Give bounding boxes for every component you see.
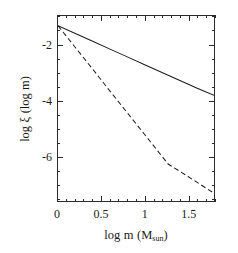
x-axis-title-close: ) <box>163 228 167 242</box>
y-axis-title: logξ(log m) <box>18 76 32 142</box>
y-axis-title-lead: log <box>18 126 32 142</box>
y-tick-right--2 <box>209 45 215 46</box>
x-tick-minor-0.1 <box>66 199 67 202</box>
x-tick-minor-1.7 <box>206 199 207 202</box>
x-tick-top-0.5 <box>101 15 102 21</box>
y-axis-title-var: ξ <box>18 117 32 123</box>
y-tick-minor--3.5 <box>57 87 60 88</box>
x-tick-top-1.8 <box>215 15 216 18</box>
x-tick-major-1 <box>145 196 146 202</box>
x-tick-top-1.5 <box>189 15 190 21</box>
y-tick-right--5.5 <box>212 143 215 144</box>
y-tick-right--5 <box>212 129 215 130</box>
y-tick-right--7 <box>212 185 215 186</box>
x-axis-title-subscript: sun <box>152 234 163 243</box>
series-line-dashed <box>58 26 214 193</box>
y-axis-title-paren: (log m) <box>18 76 32 113</box>
x-tick-label: 1 <box>142 208 148 221</box>
y-tick-right--1 <box>212 16 215 17</box>
x-tick-top-0.7 <box>118 15 119 18</box>
y-tick-minor--2.5 <box>57 59 60 60</box>
plot-frame <box>57 15 215 202</box>
x-tick-major-0.5 <box>101 196 102 202</box>
x-tick-label: 0.5 <box>93 208 108 221</box>
x-tick-top-1.1 <box>154 15 155 18</box>
x-tick-minor-1.1 <box>154 199 155 202</box>
x-tick-top-1.2 <box>162 15 163 18</box>
x-tick-top-1 <box>145 15 146 21</box>
x-tick-top-0.1 <box>66 15 67 18</box>
x-tick-minor-0.8 <box>127 199 128 202</box>
y-tick-minor--1.5 <box>57 30 60 31</box>
y-tick-right--7.5 <box>212 199 215 200</box>
y-tick-right--6.5 <box>212 171 215 172</box>
x-axis-title-lead: log <box>104 228 120 242</box>
x-axis-title: logm(Msun) <box>57 228 215 243</box>
y-tick-minor--6.5 <box>57 171 60 172</box>
x-tick-minor-1.8 <box>215 199 216 202</box>
x-tick-minor-0.7 <box>118 199 119 202</box>
y-tick-right--3 <box>212 73 215 74</box>
y-tick-major--4 <box>57 101 63 102</box>
x-tick-top-0.2 <box>75 15 76 18</box>
y-tick-minor--7.5 <box>57 199 60 200</box>
y-tick-right--4.5 <box>212 115 215 116</box>
x-tick-top-1.3 <box>171 15 172 18</box>
y-tick-minor--3 <box>57 73 60 74</box>
plot-canvas <box>58 16 214 201</box>
x-tick-minor-1.2 <box>162 199 163 202</box>
y-tick-right--3.5 <box>212 87 215 88</box>
y-axis-title-wrap: logξ(log m) <box>15 30 31 188</box>
y-tick-minor--7 <box>57 185 60 186</box>
x-tick-minor-0.4 <box>92 199 93 202</box>
x-tick-minor-1.6 <box>197 199 198 202</box>
y-tick-major--6 <box>57 157 63 158</box>
x-tick-minor-0.3 <box>83 199 84 202</box>
x-axis-title-var: m <box>124 228 134 242</box>
x-tick-label: 1.5 <box>181 208 196 221</box>
x-tick-top-0.9 <box>136 15 137 18</box>
x-axis-title-open: (M <box>137 228 152 242</box>
y-tick-right--4 <box>209 101 215 102</box>
y-tick-minor--5 <box>57 129 60 130</box>
x-tick-minor-0.2 <box>75 199 76 202</box>
x-tick-top-0.8 <box>127 15 128 18</box>
x-tick-top-1.7 <box>206 15 207 18</box>
x-tick-top-0.3 <box>83 15 84 18</box>
x-tick-minor-0.6 <box>110 199 111 202</box>
figure: 00.511.5 -2-4-6 logm(Msun) logξ(log m) <box>0 0 238 253</box>
y-tick-minor--1 <box>57 16 60 17</box>
y-tick-minor--4.5 <box>57 115 60 116</box>
x-tick-top-0.6 <box>110 15 111 18</box>
y-tick-minor--5.5 <box>57 143 60 144</box>
x-tick-top-1.4 <box>180 15 181 18</box>
y-tick-right--6 <box>209 157 215 158</box>
y-tick-right--1.5 <box>212 30 215 31</box>
x-tick-minor-0.9 <box>136 199 137 202</box>
x-tick-top-1.6 <box>197 15 198 18</box>
x-tick-minor-1.3 <box>171 199 172 202</box>
x-tick-major-1.5 <box>189 196 190 202</box>
y-tick-right--2.5 <box>212 59 215 60</box>
x-tick-minor-1.4 <box>180 199 181 202</box>
series-line-solid <box>58 26 214 96</box>
y-tick-major--2 <box>57 45 63 46</box>
x-tick-label: 0 <box>54 208 60 221</box>
x-tick-top-0.4 <box>92 15 93 18</box>
